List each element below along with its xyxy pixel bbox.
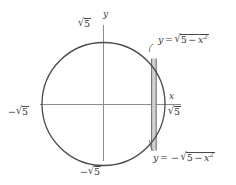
tick-y-neg-value: 5 bbox=[94, 166, 102, 177]
tick-x-pos-value: 5 bbox=[174, 106, 182, 117]
lower-eq-equals: = bbox=[158, 152, 169, 163]
lower-curve-equation: y=−√5−x2 bbox=[153, 152, 215, 163]
upper-label-leader bbox=[149, 44, 153, 52]
tick-y-pos-value: 5 bbox=[84, 18, 92, 29]
math-figure: y=√5−x2 y=−√5−x2 √5 −√5 −√5 √5 y x bbox=[0, 0, 236, 185]
upper-eq-exponent: 2 bbox=[203, 32, 207, 40]
lower-eq-exponent: 2 bbox=[209, 150, 213, 158]
upper-eq-minus: − bbox=[187, 34, 198, 45]
upper-eq-equals: = bbox=[163, 34, 174, 45]
tick-x-neg-value: 5 bbox=[22, 106, 30, 117]
upper-curve-equation: y=√5−x2 bbox=[158, 34, 209, 45]
x-axis-tick-positive: √5 bbox=[168, 106, 181, 117]
y-axis-tick-negative: −√5 bbox=[80, 166, 101, 177]
tick-y-pos-radical: √5 bbox=[78, 18, 91, 29]
tick-x-pos-radical: √5 bbox=[168, 106, 181, 117]
upper-eq-radicand: 5−x2 bbox=[180, 34, 208, 45]
lower-eq-radicand: 5−x2 bbox=[186, 152, 214, 163]
lower-eq-sign: − bbox=[170, 152, 181, 163]
lower-eq-minus: − bbox=[193, 152, 204, 163]
x-axis-name: x bbox=[169, 92, 174, 101]
upper-eq-five: 5 bbox=[181, 34, 187, 45]
y-axis-name: y bbox=[103, 10, 108, 19]
lower-eq-five: 5 bbox=[187, 152, 193, 163]
x-axis-tick-negative: −√5 bbox=[8, 106, 29, 117]
tick-y-neg-radical: √5 bbox=[88, 166, 101, 177]
tick-x-neg-radical: √5 bbox=[16, 106, 29, 117]
tick-x-neg-sign: − bbox=[8, 106, 16, 117]
y-axis-tick-positive: √5 bbox=[78, 18, 91, 29]
upper-eq-radical: √5−x2 bbox=[175, 34, 209, 45]
lower-eq-radical: √5−x2 bbox=[181, 152, 215, 163]
tick-y-neg-sign: − bbox=[80, 166, 88, 177]
